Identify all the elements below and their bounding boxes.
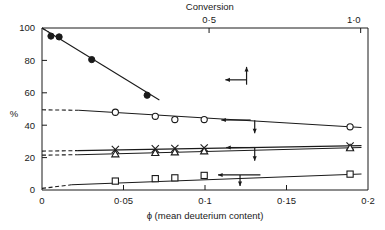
conversion-axis-title: Conversion bbox=[186, 1, 234, 12]
data-point-open-square-series-3 bbox=[201, 172, 207, 178]
data-point-open-circle-series-4 bbox=[347, 124, 353, 130]
marker-open-circle bbox=[112, 109, 118, 115]
x-axis-title: ϕ (mean deuterium content) bbox=[147, 210, 264, 221]
data-point-filled-circle-series-3 bbox=[144, 92, 150, 98]
marker-open-square bbox=[347, 171, 353, 177]
data-point-filled-circle-series-2 bbox=[89, 56, 95, 62]
marker-filled-circle bbox=[89, 56, 95, 62]
data-point-open-square-series-1 bbox=[152, 176, 158, 182]
marker-filled-circle bbox=[48, 33, 54, 39]
x-axis-tick-label-4: 0·2 bbox=[361, 195, 375, 206]
marker-open-square bbox=[172, 175, 178, 181]
data-point-open-circle-series-2 bbox=[172, 116, 178, 122]
y-axis-tick-label-1: 20 bbox=[24, 152, 35, 163]
data-point-open-square-series-4 bbox=[347, 171, 353, 177]
y-axis-tick-label-2: 40 bbox=[24, 120, 35, 131]
conversion-axis-tick-label-1: 1·0 bbox=[347, 14, 361, 25]
data-point-open-circle-series-3 bbox=[201, 116, 207, 122]
marker-open-square bbox=[152, 176, 158, 182]
data-point-filled-circle-series-1 bbox=[56, 34, 62, 40]
x-axis-tick-label-3: 0·15 bbox=[277, 195, 296, 206]
data-point-open-square-series-2 bbox=[172, 175, 178, 181]
marker-open-circle bbox=[201, 116, 207, 122]
x-axis-tick-label-0: 0 bbox=[39, 195, 44, 206]
y-axis-tick-label-0: 0 bbox=[30, 184, 35, 195]
y-axis-title: % bbox=[10, 108, 19, 119]
y-axis-tick-label-3: 60 bbox=[24, 87, 35, 98]
y-axis-tick-label-4: 80 bbox=[24, 55, 35, 66]
marker-open-circle bbox=[172, 116, 178, 122]
data-point-filled-circle-series-0 bbox=[48, 33, 54, 39]
data-point-open-square-series-0 bbox=[112, 178, 118, 184]
data-point-open-circle-series-0 bbox=[112, 109, 118, 115]
y-axis-tick-label-5: 100 bbox=[19, 22, 35, 33]
marker-filled-circle bbox=[144, 92, 150, 98]
data-point-open-circle-series-1 bbox=[152, 113, 158, 119]
marker-open-square bbox=[201, 172, 207, 178]
conversion-axis-tick-label-0: 0·5 bbox=[202, 14, 216, 25]
marker-open-circle bbox=[152, 113, 158, 119]
marker-filled-circle bbox=[56, 34, 62, 40]
marker-open-circle bbox=[347, 124, 353, 130]
figure-container: 02040608010000·050·10·150·20·51·0Convers… bbox=[0, 0, 385, 230]
marker-open-square bbox=[112, 178, 118, 184]
x-axis-tick-label-1: 0·05 bbox=[114, 195, 133, 206]
x-axis-tick-label-2: 0·1 bbox=[198, 195, 212, 206]
chart-canvas: 02040608010000·050·10·150·20·51·0Convers… bbox=[0, 0, 385, 230]
